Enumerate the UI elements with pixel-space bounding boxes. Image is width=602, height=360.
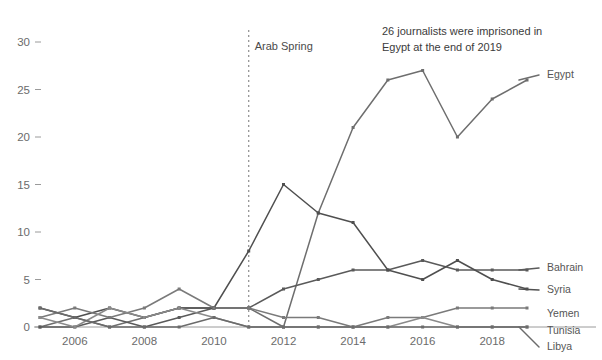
data-point-libya [143, 326, 146, 329]
data-point-syria [247, 250, 250, 253]
data-point-libya [247, 326, 250, 329]
data-point-tunisia [178, 307, 181, 310]
data-point-bahrain [178, 316, 181, 319]
data-point-tunisia [39, 316, 42, 319]
series-label-yemen: Yemen [547, 307, 579, 319]
series-label-egypt: Egypt [547, 68, 574, 80]
event-marker-arab-spring: Arab Spring [249, 30, 313, 327]
data-point-yemen [386, 316, 389, 319]
series-line-syria [40, 185, 527, 318]
data-point-tunisia [108, 307, 111, 310]
y-tick-label: 30 [17, 36, 30, 48]
y-tick-label: 15 [17, 179, 30, 191]
data-point-libya [352, 326, 355, 329]
x-tick-label: 2016 [410, 335, 436, 347]
data-point-bahrain [317, 278, 320, 281]
data-point-bahrain [456, 269, 459, 272]
leader-line-egypt [519, 75, 539, 80]
data-point-yemen [456, 307, 459, 310]
x-tick-label: 2010 [201, 335, 227, 347]
data-point-libya [386, 326, 389, 329]
data-point-egypt [421, 69, 424, 72]
annotation-line-1: 26 journalists were imprisoned in [382, 25, 542, 37]
series-label-syria: Syria [547, 283, 571, 295]
data-point-yemen [491, 307, 494, 310]
data-point-tunisia [73, 326, 76, 329]
data-point-yemen [282, 316, 285, 319]
data-point-yemen [247, 307, 250, 310]
data-point-libya [212, 316, 215, 319]
data-point-yemen [73, 307, 76, 310]
line-chart: 051015202530 200620082010201220142016201… [0, 0, 602, 360]
data-point-syria [491, 278, 494, 281]
x-tick-label: 2006 [62, 335, 88, 347]
annotation-line-2: Egypt at the end of 2019 [382, 41, 502, 53]
x-axis-ticks: 2006200820102012201420162018 [62, 335, 505, 347]
leader-line-bahrain [519, 268, 539, 270]
y-tick-label: 0 [24, 321, 30, 333]
data-point-tunisia [421, 316, 424, 319]
data-point-bahrain [421, 259, 424, 262]
data-point-yemen [178, 288, 181, 291]
data-point-libya [491, 326, 494, 329]
x-tick-label: 2012 [271, 335, 297, 347]
data-point-yemen [108, 316, 111, 319]
data-point-libya [282, 326, 285, 329]
series-label-bahrain: Bahrain [547, 261, 583, 273]
series-label-libya: Libya [547, 340, 572, 352]
data-point-egypt [352, 126, 355, 129]
data-point-syria [352, 221, 355, 224]
leader-line-libya [519, 327, 539, 347]
data-point-yemen [212, 307, 215, 310]
data-point-bahrain [352, 269, 355, 272]
data-point-syria [282, 183, 285, 186]
data-point-egypt [491, 98, 494, 101]
data-point-bahrain [282, 288, 285, 291]
series-line-yemen [40, 289, 527, 327]
data-point-libya [421, 326, 424, 329]
data-point-libya [456, 326, 459, 329]
data-point-yemen [317, 316, 320, 319]
data-point-yemen [526, 307, 529, 310]
chart-annotation: 26 journalists were imprisoned inEgypt a… [382, 25, 542, 53]
y-tick-label: 25 [17, 84, 30, 96]
data-point-syria [386, 269, 389, 272]
data-point-syria [317, 212, 320, 215]
data-point-yemen [143, 307, 146, 310]
series-label-tunisia: Tunisia [547, 324, 581, 336]
data-point-egypt [456, 136, 459, 139]
series-labels: EgyptBahrainSyriaYemenTunisiaLibya [547, 68, 583, 352]
data-point-syria [456, 259, 459, 262]
data-point-libya [178, 326, 181, 329]
x-tick-label: 2014 [340, 335, 366, 347]
data-point-egypt [386, 79, 389, 82]
y-axis-ticks: 051015202530 [17, 36, 41, 333]
data-point-bahrain [39, 326, 42, 329]
arab-spring-label: Arab Spring [255, 40, 313, 52]
data-point-libya [39, 307, 42, 310]
x-tick-label: 2018 [479, 335, 505, 347]
chart-canvas: 051015202530 200620082010201220142016201… [0, 0, 602, 360]
data-point-syria [421, 278, 424, 281]
series-label-leaders [519, 75, 539, 347]
data-point-libya [108, 326, 111, 329]
data-point-bahrain [491, 269, 494, 272]
data-point-tunisia [143, 316, 146, 319]
data-point-libya [526, 326, 529, 329]
data-point-libya [73, 316, 76, 319]
y-tick-label: 5 [24, 274, 30, 286]
data-point-libya [317, 326, 320, 329]
y-tick-label: 20 [17, 131, 30, 143]
series-point-markers [39, 69, 529, 329]
x-tick-label: 2008 [132, 335, 158, 347]
y-tick-label: 10 [17, 226, 30, 238]
leader-line-syria [519, 289, 539, 290]
